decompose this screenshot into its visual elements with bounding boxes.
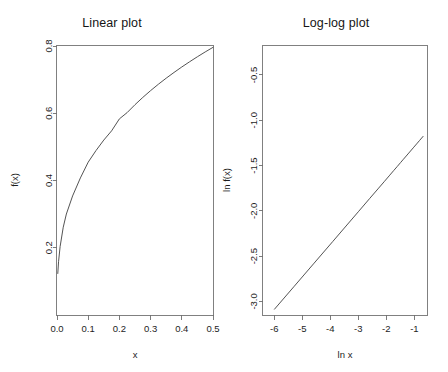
y-tick-label: 0.4: [43, 174, 54, 187]
y-tick-label: 0.8: [43, 39, 54, 52]
x-tick-label: 0.3: [144, 323, 157, 334]
y-tick-label: -2.0: [249, 203, 260, 219]
x-tick-label: 0.5: [206, 323, 219, 334]
x-tick-label: 0.2: [113, 323, 126, 334]
axis-ticks-loglog: [259, 75, 415, 320]
linear-plot-svg: 0.00.10.20.30.40.50.20.40.60.8 x f(x): [0, 0, 224, 372]
y-tick-label: -3.0: [249, 293, 260, 309]
x-axis-title-linear: x: [133, 349, 138, 360]
y-tick-label: 0.6: [43, 107, 54, 120]
y-tick-label: -1.0: [249, 112, 260, 128]
x-tick-label: -2: [382, 323, 390, 334]
plot-box-loglog: [263, 46, 428, 316]
loglog-plot-svg: -6-5-4-3-2-1-0.5-1.0-1.5-2.0-2.5-3.0 ln …: [224, 0, 448, 372]
y-tick-label: -2.5: [249, 248, 260, 264]
y-axis-title-loglog: ln f(x): [221, 168, 232, 192]
axis-tick-labels-loglog: -6-5-4-3-2-1-0.5-1.0-1.5-2.0-2.5-3.0: [249, 67, 419, 334]
curve-path-linear: [58, 47, 213, 273]
x-tick-label: 0.1: [82, 323, 95, 334]
y-tick-label: 0.2: [43, 241, 54, 254]
figure-canvas: Linear plot 0.00.10.20.30.40.50.20.40.60…: [0, 0, 448, 372]
x-tick-label: 0.0: [50, 323, 63, 334]
plot-panel-loglog: Log-log plot -6-5-4-3-2-1-0.5-1.0-1.5-2.…: [224, 0, 448, 372]
y-tick-label: -0.5: [249, 67, 260, 83]
data-series-linear: [58, 47, 213, 273]
x-tick-label: -5: [298, 323, 306, 334]
x-tick-label: -3: [354, 323, 362, 334]
x-axis-title-loglog: ln x: [338, 349, 353, 360]
plot-box-linear: [57, 46, 214, 316]
axis-tick-labels-linear: 0.00.10.20.30.40.50.20.40.60.8: [43, 39, 220, 334]
axis-ticks-linear: [53, 46, 214, 320]
x-tick-label: -6: [270, 323, 278, 334]
y-axis-title-linear: f(x): [9, 173, 20, 187]
x-tick-label: -4: [326, 323, 334, 334]
curve-path-loglog: [274, 136, 423, 309]
x-tick-label: 0.4: [175, 323, 188, 334]
x-tick-label: -1: [410, 323, 418, 334]
y-tick-label: -1.5: [249, 157, 260, 173]
plot-panel-linear: Linear plot 0.00.10.20.30.40.50.20.40.60…: [0, 0, 224, 372]
data-series-loglog: [274, 136, 423, 309]
